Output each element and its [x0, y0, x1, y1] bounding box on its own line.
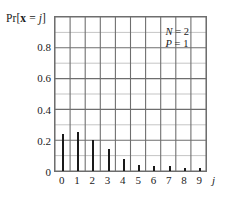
x-tick-label: 4	[120, 174, 126, 186]
x-tick-label: 2	[90, 174, 96, 186]
bar	[92, 140, 94, 171]
annotation-line-n: N = 2	[166, 26, 189, 38]
x-tick-label: 9	[197, 174, 203, 186]
x-axis-label: j	[212, 174, 215, 186]
chart-annotation: N = 2 P = 1	[166, 26, 189, 50]
x-tick-label: 8	[181, 174, 187, 186]
y-tick-label: 0.6	[37, 72, 51, 84]
x-tick-label: 0	[59, 174, 65, 186]
bar	[108, 149, 110, 171]
bar	[62, 134, 64, 171]
x-tick-label: 5	[135, 174, 141, 186]
bar	[153, 166, 155, 171]
bar	[169, 166, 171, 171]
y-axis-label-prefix: Pr[	[6, 12, 20, 24]
plot-area: N = 2 P = 1	[54, 16, 207, 172]
bar	[138, 165, 140, 171]
probability-distribution-chart: Pr[x = j] 00.20.40.60.8 N = 2 P = 1 0123…	[0, 0, 227, 202]
x-axis-tick-labels: 0123456789	[54, 174, 207, 190]
bar	[199, 168, 201, 171]
bar	[123, 159, 125, 171]
y-tick-label: 0.2	[37, 135, 51, 147]
y-tick-label: 0	[46, 166, 52, 178]
x-tick-label: 7	[166, 174, 172, 186]
annotation-line-p: P = 1	[166, 38, 189, 50]
annotation-p-value: = 1	[172, 38, 188, 49]
annotation-n-variable: N	[166, 26, 173, 37]
bar	[184, 168, 186, 171]
x-tick-label: 6	[151, 174, 157, 186]
y-tick-label: 0.4	[37, 104, 51, 116]
y-tick-label: 0.8	[37, 41, 51, 53]
x-tick-label: 3	[105, 174, 111, 186]
annotation-n-value: = 2	[173, 26, 189, 37]
y-axis-tick-labels: 00.20.40.60.8	[20, 16, 51, 172]
x-tick-label: 1	[74, 174, 80, 186]
bar	[77, 132, 79, 171]
